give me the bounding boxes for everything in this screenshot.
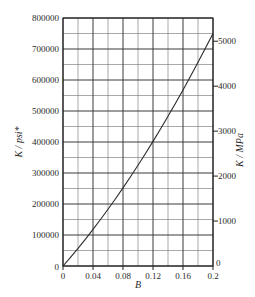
y-axis-left-tick-label: 600000 [32,75,60,85]
y-axis-right-title: K / MPa [234,133,245,168]
x-axis-tick-label: 0.12 [145,271,161,281]
y-axis-right-tick-label: 2000 [218,171,237,181]
x-axis-tick-label: 0.08 [115,271,131,281]
x-axis-title: B [135,279,141,290]
left-axis-tick-labels: 1000002000003000004000005000006000007000… [32,13,60,240]
y-axis-right-tick-label: 5000 [218,36,237,46]
y-axis-left-tick-label: 100000 [32,230,60,240]
origin-zero-right: 0 [216,258,221,268]
x-axis-tick-label: 0.04 [85,271,101,281]
x-axis-tick-label: 0 [61,271,66,281]
y-axis-left-title: K / psi* [13,126,24,158]
chart-figure: 1000002000003000004000005000006000007000… [0,0,255,297]
y-axis-left-tick-label: 300000 [32,168,60,178]
y-axis-left-tick-label: 200000 [32,199,60,209]
y-axis-left-tick-label: 800000 [32,13,60,23]
y-axis-left-tick-label: 500000 [32,106,60,116]
y-axis-left-tick-label: 700000 [32,44,60,54]
right-axis-tick-labels: 10002000300040005000 [218,36,237,226]
x-axis-tick-label: 0.2 [207,271,218,281]
x-axis-ticks [63,266,213,270]
chart-svg: 1000002000003000004000005000006000007000… [0,0,255,297]
y-axis-right-tick-label: 1000 [218,216,237,226]
y-axis-right-tick-label: 4000 [218,81,237,91]
x-axis-tick-label: 0.16 [175,271,191,281]
y-axis-left-tick-label: 400000 [32,137,60,147]
origin-zero-left: 0 [55,262,60,272]
